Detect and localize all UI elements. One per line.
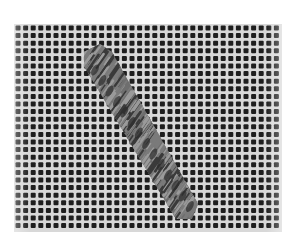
needlepoint-photo — [0, 0, 301, 242]
